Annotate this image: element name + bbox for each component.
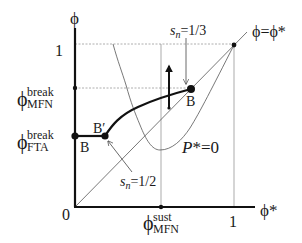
svg-text:ϕ: ϕ [143,212,154,235]
y-axis-label: ϕ [70,9,79,28]
p-star-zero-label: P*=0 [181,138,219,157]
origin-label: 0 [62,206,70,223]
point-b-upper-label: B [186,94,195,109]
point-mfn-break-axis [73,86,77,90]
mfn-break-label: ϕ break MFN [17,85,54,111]
svg-text:MFN: MFN [27,97,53,111]
mfn-sust-label: ϕ sust MFN [143,210,179,236]
break-sust-diagram: ϕ ϕ* 0 1 1 ϕ=ϕ* ϕ break MFN ϕ break FTA … [0,0,302,243]
svg-text:ϕ: ϕ [17,131,28,154]
svg-text:MFN: MFN [153,222,179,236]
p-star-zero-curve [113,44,234,150]
point-b-left [71,132,78,139]
fta-break-label: ϕ break FTA [17,128,54,154]
arrow-base-dot [167,106,170,109]
point-mfn-sust-axis [159,205,163,209]
svg-text:ϕ: ϕ [17,88,28,111]
bprime-to-b-curve [105,89,191,136]
point-b-left-label: B [80,140,89,155]
svg-text:FTA: FTA [27,140,49,154]
diagonal-label: ϕ=ϕ* [252,23,286,41]
sn-third-label: sn=1/3 [170,23,206,40]
sn-half-pointer [108,141,132,172]
y-tick-one: 1 [55,42,63,59]
point-one-one [232,43,237,48]
point-b-upper [187,85,195,93]
sn-half-label: sn=1/2 [120,174,156,191]
point-b-prime-label: B′ [93,121,105,136]
x-tick-one: 1 [229,213,237,230]
x-axis-label: ϕ* [260,201,277,220]
